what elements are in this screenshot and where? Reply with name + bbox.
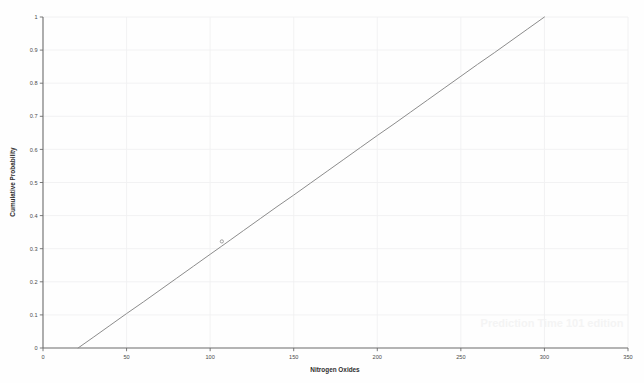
x-tick-label-100: 100 [205,354,214,360]
y-tick-label-0.3: 0.3 [30,246,38,252]
y-tick-label-0: 0 [34,345,37,351]
y-tick-label-0.7: 0.7 [30,113,38,119]
y-tick-label-0.1: 0.1 [30,312,38,318]
chart-canvas: 050100150200250300350 00.10.20.30.40.50.… [0,0,644,383]
x-tick-label-150: 150 [289,354,298,360]
watermark-label: Prediction Time 101 edition [481,317,624,329]
y-tick-label-0.4: 0.4 [30,213,38,219]
y-tick-label-0.2: 0.2 [30,279,38,285]
x-tick-label-300: 300 [540,354,549,360]
y-tick-label-0.9: 0.9 [30,47,38,53]
x-tick-label-0: 0 [41,354,44,360]
x-tick-label-350: 350 [623,354,632,360]
y-tick-label-0.6: 0.6 [30,147,38,153]
y-axis-title: Cumulative Probability [9,147,17,217]
y-tick-label-0.8: 0.8 [30,80,38,86]
y-tick-label-0.5: 0.5 [30,180,38,186]
x-tick-label-50: 50 [123,354,129,360]
x-tick-label-250: 250 [456,354,465,360]
x-axis-title: Nitrogen Oxides [310,366,360,374]
y-tick-label-1: 1 [34,14,37,20]
cumulative-probability-chart: 050100150200250300350 00.10.20.30.40.50.… [0,0,644,383]
x-tick-label-200: 200 [373,354,382,360]
